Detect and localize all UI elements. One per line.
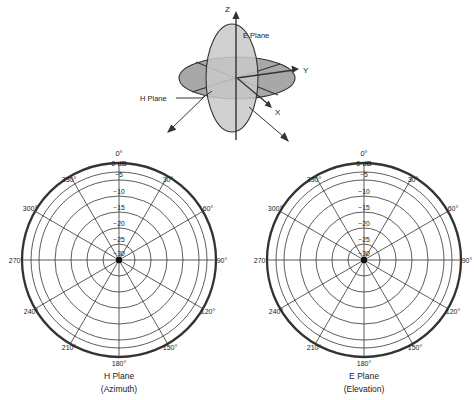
h-angle-300: 300° [23, 205, 38, 212]
three-d-plane-diagram: Z Y X E Plane H Plane [140, 5, 309, 142]
e-angle-120: 120° [446, 308, 461, 315]
h-plane-connector-arrow [172, 96, 205, 128]
e-ring-label-minus20: −20 [358, 220, 370, 227]
e-angle-240: 240° [269, 308, 284, 315]
e-ring-label-minus10: −10 [358, 188, 370, 195]
e-ring-label-minus15: −15 [358, 204, 370, 211]
e-scale-unit-label: 0 dB [356, 159, 371, 168]
h-ring-label-minus15: −15 [113, 204, 125, 211]
polar-origin-dot [361, 257, 367, 263]
e-angle-90: 90° [462, 257, 473, 264]
h-angle-120: 120° [201, 308, 216, 315]
h-angle-240: 240° [24, 308, 39, 315]
e-angle-60: 60° [448, 205, 459, 212]
e-plane-connector-arrowhead [280, 132, 289, 142]
e-ring-label-minus5: −5 [360, 171, 368, 178]
h-plane-caption-subtitle: (Azimuth) [101, 384, 138, 394]
e-plane-polar-plot: 0° 0 dB −5 −10 −15 −20 −25 −30 30° 60° 9… [254, 149, 473, 394]
e-angle-330: 330° [307, 176, 322, 183]
figure-canvas: Z Y X E Plane H Plane [0, 0, 474, 400]
h-scale-unit-label: 0 dB [111, 159, 126, 168]
e-angle-30: 30° [408, 176, 419, 183]
h-ring-label-minus10: −10 [113, 188, 125, 195]
y-axis-label: Y [303, 66, 309, 75]
h-angle-210: 210° [62, 344, 77, 351]
e-plane-caption-title: E Plane [349, 371, 379, 381]
x-axis-label: X [275, 108, 281, 117]
e-ring-label-minus30: −30 [358, 250, 370, 257]
e-plane-caption-subtitle: (Elevation) [344, 384, 385, 394]
z-axis-label: Z [225, 5, 230, 14]
h-angle-60: 60° [203, 205, 214, 212]
antenna-pattern-figure: Z Y X E Plane H Plane [0, 0, 474, 400]
h-ring-label-minus20: −20 [113, 220, 125, 227]
h-angle-90: 90° [217, 257, 228, 264]
polar-origin-dot [116, 257, 122, 263]
z-axis-arrowhead [232, 11, 239, 19]
h-ring-label-minus25: −25 [113, 236, 125, 243]
e-angle-180: 180° [357, 360, 372, 367]
e-angle-270: 270° [254, 257, 269, 264]
h-ring-label-minus30: −30 [113, 250, 125, 257]
h-plane-caption-title: H Plane [104, 371, 135, 381]
e-angle-300: 300° [268, 205, 283, 212]
h-plane-polar-plot: 0° 0 dB −5 −10 −15 −20 −25 −30 30° 60° 9… [9, 149, 228, 394]
h-angle-30: 30° [163, 176, 174, 183]
h-angle-150: 150° [163, 344, 178, 351]
y-axis-arrowhead [292, 66, 300, 73]
e-plane-label: E Plane [243, 31, 269, 40]
h-ring-label-minus5: −5 [115, 171, 123, 178]
e-angle-210: 210° [307, 344, 322, 351]
e-angle-150: 150° [408, 344, 423, 351]
h-top-angle-label: 0° [115, 149, 122, 158]
h-angle-270: 270° [9, 257, 24, 264]
e-plane-ellipse [206, 24, 258, 132]
h-angle-330: 330° [62, 176, 77, 183]
e-top-angle-label: 0° [360, 149, 367, 158]
e-ring-label-minus25: −25 [358, 236, 370, 243]
h-plane-label: H Plane [140, 94, 167, 103]
h-angle-180: 180° [112, 360, 127, 367]
